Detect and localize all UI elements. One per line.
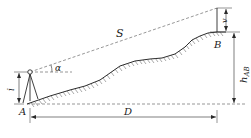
label-v: v xyxy=(220,18,229,23)
trig-leveling-diagram: S α i A B D v hAB xyxy=(0,0,251,138)
label-a: A xyxy=(18,106,26,117)
label-i: i xyxy=(6,88,16,91)
label-h-ab: hAB xyxy=(238,66,251,83)
label-s: S xyxy=(116,27,124,40)
instrument-head-icon xyxy=(28,70,32,74)
label-d: D xyxy=(123,106,132,117)
label-alpha: α xyxy=(55,63,61,73)
alpha-angle-arc xyxy=(51,65,52,72)
theodolite-tripod xyxy=(23,74,38,103)
label-b: B xyxy=(213,39,221,50)
